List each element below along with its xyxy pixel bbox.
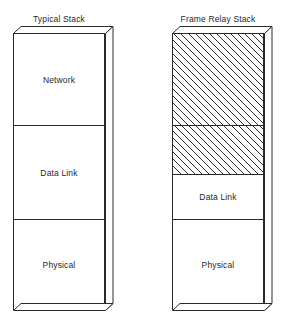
typical-stack-right-face bbox=[106, 27, 114, 311]
diagram-canvas: Typical Stack Frame Relay Stack Network … bbox=[0, 0, 288, 335]
layer-data-link-typical: Data Link bbox=[14, 125, 104, 219]
stack-title-frame-relay: Frame Relay Stack bbox=[172, 14, 264, 24]
layer-physical-frame-relay-label: Physical bbox=[202, 260, 235, 270]
stack-title-typical: Typical Stack bbox=[13, 14, 105, 24]
layer-network-label: Network bbox=[43, 75, 75, 85]
layer-upper-hatched-top bbox=[173, 34, 263, 125]
layer-data-link-frame-relay: Data Link bbox=[173, 174, 263, 219]
layer-physical-typical: Physical bbox=[14, 219, 104, 309]
layer-data-link-frame-relay-label: Data Link bbox=[199, 192, 236, 202]
layer-network: Network bbox=[14, 34, 104, 125]
frame-relay-stack-prism: Data Link Physical bbox=[172, 33, 264, 310]
typical-stack-prism: Network Data Link Physical bbox=[13, 33, 105, 310]
layer-physical-typical-label: Physical bbox=[43, 260, 76, 270]
layer-upper-hatched-bottom bbox=[173, 125, 263, 174]
layer-physical-frame-relay: Physical bbox=[173, 219, 263, 309]
layer-data-link-typical-label: Data Link bbox=[40, 168, 77, 178]
frame-relay-stack-right-face bbox=[265, 27, 273, 311]
